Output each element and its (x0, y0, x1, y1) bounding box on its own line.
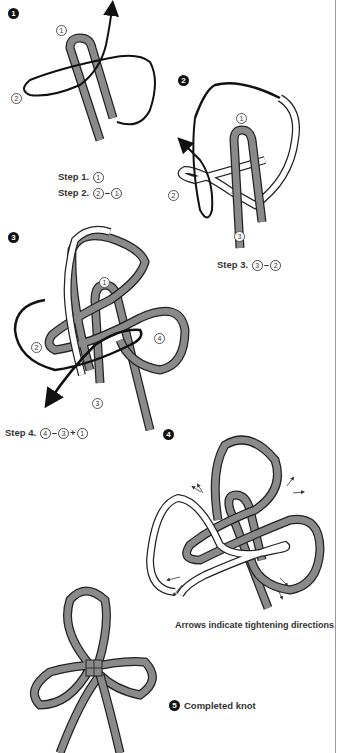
step-3-badge: 3 (8, 232, 19, 243)
strand-label: 4 (154, 333, 165, 344)
strand-label: 2 (168, 190, 179, 201)
tightening-caption: Arrows indicate tightening directions (175, 620, 334, 630)
step1-diagram (24, 8, 155, 140)
knot-illustrations (0, 0, 339, 753)
step-1-badge: 1 (8, 8, 19, 19)
step-1-caption: Step 1. 1 (58, 171, 105, 183)
step-2-caption: Step 2. 2–1 (58, 187, 123, 199)
strand-label: 1 (236, 113, 247, 124)
step-4-badge: 4 (163, 429, 174, 440)
step5-diagram (34, 591, 152, 753)
step-4-caption: Step 4. 4–3+1 (5, 427, 89, 439)
step2-diagram (182, 83, 296, 248)
step4-diagram (150, 440, 320, 608)
completed-knot-caption: Completed knot (184, 700, 256, 711)
step-5-badge: 5 (169, 700, 180, 711)
step-2-badge: 2 (178, 75, 189, 86)
strand-label: 2 (31, 342, 42, 353)
strand-label: 3 (234, 231, 245, 242)
strand-label: 1 (56, 25, 67, 36)
strand-label: 3 (92, 398, 103, 409)
strand-label: 1 (99, 277, 110, 288)
strand-label: 2 (11, 93, 22, 104)
step-3-caption: Step 3. 3–2 (217, 259, 282, 271)
